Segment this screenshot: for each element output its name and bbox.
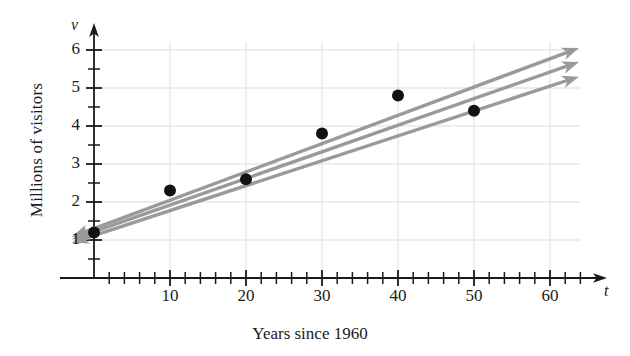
data-point-5 <box>468 105 480 117</box>
x-tick-label-20: 20 <box>229 286 263 306</box>
data-point-4 <box>392 90 404 102</box>
data-point-2 <box>240 173 252 185</box>
y-tick-label-4: 4 <box>58 115 80 135</box>
y-tick-label-6: 6 <box>58 39 80 59</box>
y-axis-variable-label: v <box>71 16 78 34</box>
x-tick-label-10: 10 <box>153 286 187 306</box>
x-tick-label-30: 30 <box>305 286 339 306</box>
data-point-0 <box>88 226 100 238</box>
data-point-1 <box>164 185 176 197</box>
data-point-3 <box>316 128 328 140</box>
x-tick-label-50: 50 <box>457 286 491 306</box>
y-axis-title: Millions of visitors <box>27 35 47 265</box>
y-tick-label-1: 1 <box>58 229 80 249</box>
x-tick-label-40: 40 <box>381 286 415 306</box>
x-axis-title: Years since 1960 <box>160 324 460 344</box>
y-tick-label-5: 5 <box>58 77 80 97</box>
x-axis-variable-label: t <box>604 282 608 300</box>
y-tick-label-3: 3 <box>58 153 80 173</box>
y-tick-label-2: 2 <box>58 191 80 211</box>
x-tick-label-60: 60 <box>533 286 567 306</box>
